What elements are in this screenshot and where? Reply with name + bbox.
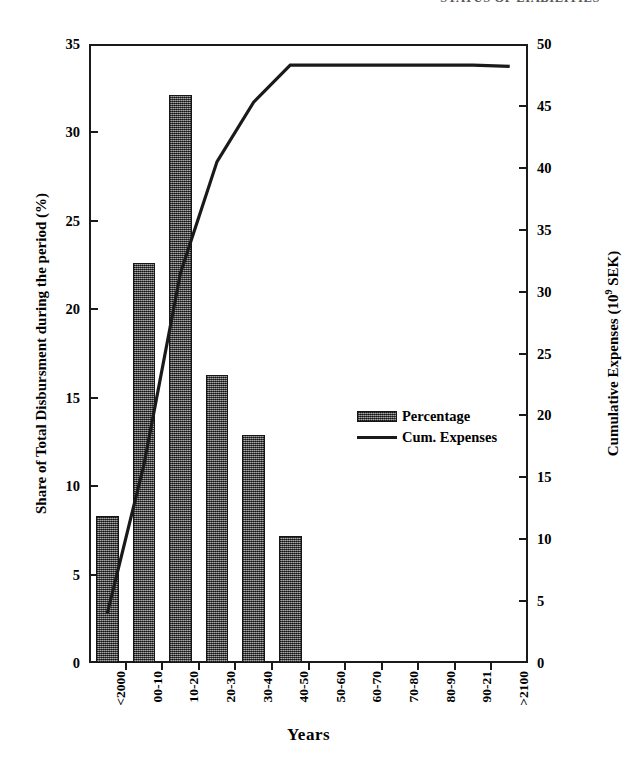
solid-line-swatch-icon (357, 436, 397, 439)
x-axis-tick-label: 10-20 (186, 671, 202, 703)
y-axis-right-tick-label: 0 (537, 656, 544, 671)
x-axis-tick-label: 70-80 (406, 671, 422, 703)
y-axis-right-title: Cumulative Expenses (109 SEK) (598, 44, 620, 663)
legend-label-cum-expenses: Cum. Expenses (402, 429, 497, 446)
y-axis-left-title: Share of Total Disbursment during the pe… (30, 44, 52, 663)
x-axis-tick-label: <2000 (113, 671, 129, 706)
x-axis-tick-label: 40-50 (296, 671, 312, 703)
x-axis-tick-label: 80-90 (443, 671, 459, 703)
y-axis-right-tick (519, 538, 526, 540)
y-axis-left-tick-label: 15 (66, 390, 81, 405)
y-axis-left-tick (91, 131, 98, 133)
x-axis-tick (125, 663, 127, 670)
bar (206, 375, 229, 663)
x-axis-tick-label: 00-10 (150, 671, 166, 703)
x-axis-tick (490, 663, 492, 670)
x-axis-tick-label: 50-60 (333, 671, 349, 703)
bar (96, 516, 119, 663)
y-axis-left-tick-label: 0 (73, 656, 80, 671)
y-axis-left-tick (91, 308, 98, 310)
y-axis-left-tick-label: 20 (66, 302, 81, 317)
x-axis-tick (198, 663, 200, 670)
x-axis-tick-label: >2100 (516, 671, 532, 706)
figure-container: STATUS OF LIABILITIES Share of Total Dis… (0, 0, 638, 765)
y-axis-left-tick (91, 397, 98, 399)
x-axis-tick (381, 663, 383, 670)
cum-expenses-polyline (107, 65, 509, 613)
y-axis-right-tick-label: 45 (537, 99, 552, 114)
running-head-text: STATUS OF LIABILITIES (440, 0, 600, 6)
y-axis-right-tick-label: 35 (537, 222, 552, 237)
y-axis-right-tick (519, 476, 526, 478)
y-axis-right-tick-label: 25 (537, 346, 552, 361)
x-axis-tick-label: 90-21 (479, 671, 495, 703)
x-axis-tick (308, 663, 310, 670)
y-axis-right-tick (519, 105, 526, 107)
legend-item-cum-expenses: Cum. Expenses (357, 427, 517, 448)
y-axis-left-tick-label: 25 (66, 214, 81, 229)
y-axis-right-tick-label: 50 (537, 37, 552, 52)
bar (279, 536, 302, 663)
y-axis-right-tick (519, 167, 526, 169)
x-axis-tick (344, 663, 346, 670)
bar (133, 263, 156, 663)
y-axis-left-tick (91, 485, 98, 487)
y-axis-left-tick (91, 220, 98, 222)
x-axis-tick (454, 663, 456, 670)
y-axis-right-tick (519, 414, 526, 416)
chart-legend: Percentage Cum. Expenses (357, 406, 517, 448)
y-axis-right-tick-label: 20 (537, 408, 552, 423)
bar (242, 435, 265, 663)
x-axis-tick-label: 30-40 (260, 671, 276, 703)
y-axis-left-tick-label: 30 (66, 125, 81, 140)
y-axis-right-tick (519, 291, 526, 293)
y-axis-right-tick-label: 15 (537, 470, 552, 485)
running-head-strip: STATUS OF LIABILITIES (0, 0, 638, 12)
y-axis-left-line (89, 44, 91, 663)
y-axis-left-tick-label: 35 (66, 37, 81, 52)
y-axis-right-title-text: Cumulative Expenses (109 SEK) (605, 251, 621, 456)
legend-item-percentage: Percentage (357, 406, 517, 427)
x-axis-tick (271, 663, 273, 670)
y-axis-right-tick-label: 40 (537, 161, 552, 176)
x-axis-tick-label: 60-70 (369, 671, 385, 703)
y-axis-right-line (526, 44, 528, 663)
x-axis-tick (161, 663, 163, 670)
hatched-bar-swatch-icon (357, 411, 397, 422)
plot-top-border (89, 44, 528, 46)
y-axis-left-tick-label: 10 (66, 479, 81, 494)
x-axis-tick (417, 663, 419, 670)
y-axis-right-tick (519, 353, 526, 355)
bar (169, 95, 192, 663)
y-axis-left-tick-label: 5 (73, 567, 80, 582)
x-axis-tick-label: 20-30 (223, 671, 239, 703)
legend-label-percentage: Percentage (402, 408, 470, 425)
y-axis-right-tick (519, 229, 526, 231)
x-axis-tick (234, 663, 236, 670)
x-axis-title: Years (89, 725, 528, 745)
y-axis-right-tick (519, 600, 526, 602)
y-axis-right-tick-label: 30 (537, 284, 552, 299)
y-axis-right-tick-label: 5 (537, 594, 544, 609)
plot-area: 05101520253035 05101520253035404550 <200… (89, 44, 528, 663)
y-axis-right-tick-label: 10 (537, 532, 552, 547)
